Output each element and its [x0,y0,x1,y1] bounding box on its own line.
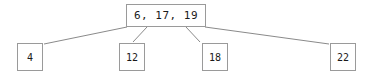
tree-node-leaf-2-label: 18 [209,52,221,63]
tree-node-leaf-1-label: 12 [126,52,138,63]
edge-root-to-child-1 [133,27,147,42]
tree-node-leaf-1: 12 [119,43,145,71]
edge-root-to-child-3 [205,27,329,44]
tree-node-leaf-0-label: 4 [27,52,33,63]
tree-node-leaf-3-label: 22 [337,52,349,63]
edge-root-to-child-2 [186,27,200,42]
tree-node-leaf-2: 18 [202,43,228,71]
edge-root-to-child-0 [44,27,127,44]
tree-node-root-label: 6, 17, 19 [134,9,198,22]
tree-node-leaf-3: 22 [330,43,356,71]
tree-diagram: 6, 17, 19 4 12 18 22 [0,0,370,74]
tree-node-root: 6, 17, 19 [126,4,206,27]
tree-node-leaf-0: 4 [17,43,43,71]
